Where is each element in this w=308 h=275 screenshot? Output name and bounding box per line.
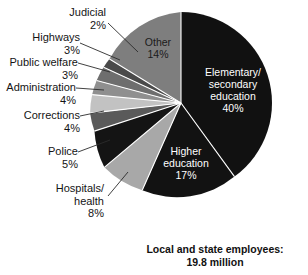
slice-label-higher-pct: 17% — [175, 169, 196, 181]
slice-label-highways-pct: 3% — [0, 44, 80, 57]
slice-label-highways: Highways 3% — [0, 31, 80, 56]
slice-label-higher-line2: education — [163, 157, 209, 169]
slice-label-corrections-pct: 4% — [0, 122, 80, 135]
slice-label-other: Other 14% — [127, 36, 189, 60]
slice-label-public-welfare-pct: 3% — [0, 69, 78, 82]
slice-label-elementary-pct: 40% — [222, 102, 243, 114]
slice-label-hospitals-line1: Hospitals/ — [56, 182, 104, 194]
slice-label-public-welfare: Public welfare 3% — [0, 56, 78, 81]
slice-label-police: Police 5% — [0, 145, 78, 170]
slice-label-police-pct: 5% — [0, 158, 78, 171]
slice-label-corrections-name: Corrections — [24, 109, 80, 121]
pie-chart-figure: Other 14% Elementary/ secondary educatio… — [0, 0, 308, 275]
slice-label-highways-name: Highways — [32, 31, 80, 43]
slice-label-hospitals-line2: health — [0, 195, 104, 208]
slice-label-administration-pct: 4% — [0, 94, 76, 107]
slice-label-judicial-pct: 2% — [0, 19, 106, 32]
slice-label-elementary-line3: education — [210, 90, 256, 102]
leader-line-highways — [80, 43, 120, 60]
slice-label-higher-education: Higher education 17% — [150, 145, 222, 181]
chart-caption: Local and state employees: 19.8 million — [126, 243, 304, 269]
slice-label-judicial: Judicial 2% — [0, 6, 106, 31]
slice-label-other-name: Other — [145, 36, 171, 48]
slice-label-corrections: Corrections 4% — [0, 109, 80, 134]
caption-line-1: Local and state employees: — [146, 243, 283, 255]
slice-label-elementary-line2: secondary — [209, 78, 257, 90]
slice-label-higher-line1: Higher — [171, 145, 202, 157]
slice-label-elementary-secondary-education: Elementary/ secondary education 40% — [188, 66, 278, 114]
slice-label-police-name: Police — [48, 145, 78, 157]
slice-label-administration-name: Administration — [6, 81, 76, 93]
slice-label-judicial-name: Judicial — [69, 6, 106, 18]
slice-label-hospitals-health: Hospitals/ health 8% — [0, 182, 104, 220]
slice-label-hospitals-pct: 8% — [0, 207, 104, 220]
slice-label-other-pct: 14% — [147, 48, 168, 60]
slice-label-public-welfare-name: Public welfare — [10, 56, 78, 68]
slice-label-administration: Administration 4% — [0, 81, 76, 106]
slice-label-elementary-line1: Elementary/ — [205, 66, 261, 78]
caption-line-2: 19.8 million — [186, 256, 243, 268]
